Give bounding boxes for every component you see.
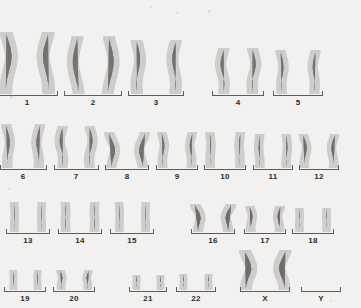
chromosome-group-8[interactable]: 8 — [105, 110, 149, 182]
chromosome-group-y[interactable]: Y — [301, 252, 341, 304]
group-label: 9 — [156, 171, 198, 182]
chromatid — [54, 202, 77, 232]
group-label: 10 — [204, 171, 246, 182]
chromatid — [199, 132, 222, 168]
row-3: 131415161718 — [0, 188, 361, 246]
paper-speck — [176, 12, 178, 14]
group-label: 17 — [244, 235, 286, 246]
chromosome-group-17[interactable]: 17 — [244, 188, 286, 246]
group-bracket — [110, 229, 154, 234]
paper-speck — [330, 300, 332, 302]
group-bracket — [53, 287, 95, 292]
group-bracket — [253, 165, 293, 170]
chromatid — [186, 204, 211, 232]
group-bracket — [105, 165, 149, 170]
chromosome-group-19[interactable]: 19 — [4, 252, 46, 304]
chromosome-group-20[interactable]: 20 — [53, 252, 95, 304]
group-bracket — [54, 165, 99, 170]
chromatid — [61, 36, 90, 94]
group-label: 12 — [299, 171, 339, 182]
chromosome-group-16[interactable]: 16 — [191, 188, 235, 246]
chromosome-group-7[interactable]: 7 — [54, 110, 99, 182]
group-bracket — [244, 229, 286, 234]
group-bracket — [176, 287, 216, 292]
paper-speck — [24, 300, 27, 302]
group-bracket — [240, 287, 290, 292]
chromatid — [49, 126, 74, 168]
chromatid — [152, 132, 175, 168]
chromosome-pair-14 — [58, 188, 102, 232]
group-label: 16 — [191, 235, 235, 246]
chromosome-group-9[interactable]: 9 — [156, 110, 198, 182]
chromosome-group-10[interactable]: 10 — [204, 110, 246, 182]
group-label: 21 — [129, 293, 167, 304]
chromosome-pair-16 — [191, 188, 235, 232]
chromosome-group-14[interactable]: 14 — [58, 188, 102, 246]
chromosome-group-x[interactable]: X — [240, 252, 290, 304]
chromosome-group-1[interactable]: 1 — [0, 18, 58, 108]
group-label: 5 — [273, 97, 323, 108]
chromosome-group-6[interactable]: 6 — [0, 110, 47, 182]
chromosome-pair-15 — [110, 188, 154, 232]
karyotype-figure: 12345678910111213141516171819202122XY — [0, 0, 361, 308]
group-bracket — [58, 229, 102, 234]
group-label: 19 — [4, 293, 46, 304]
chromosome-group-22[interactable]: 22 — [176, 252, 216, 304]
chromosome-group-13[interactable]: 13 — [6, 188, 50, 246]
group-bracket — [64, 91, 122, 96]
chromosome-pair-4 — [212, 18, 264, 94]
row-4: 19202122XY — [0, 252, 361, 304]
row-1: 12345 — [0, 18, 361, 108]
chromosome-pair-6 — [0, 110, 47, 168]
group-bracket — [156, 165, 198, 170]
group-label: 11 — [253, 171, 293, 182]
chromatid — [83, 202, 106, 232]
chromatid — [209, 48, 236, 94]
group-bracket — [0, 165, 47, 170]
group-bracket — [0, 91, 58, 96]
paper-speck — [8, 188, 10, 190]
chromatid — [248, 134, 271, 168]
group-label: 18 — [292, 235, 334, 246]
chromatid — [29, 32, 61, 94]
chromosome-group-15[interactable]: 15 — [110, 188, 154, 246]
chromatid — [0, 32, 25, 94]
chromatid — [100, 132, 125, 168]
chromosome-group-4[interactable]: 4 — [212, 18, 264, 108]
chromatid — [4, 202, 25, 232]
group-bracket — [129, 287, 167, 292]
chromosome-group-11[interactable]: 11 — [253, 110, 293, 182]
chromatid — [234, 250, 263, 290]
chromosome-group-5[interactable]: 5 — [273, 18, 323, 108]
group-label: X — [240, 293, 290, 304]
chromosome-group-18[interactable]: 18 — [292, 188, 334, 246]
group-label: 1 — [0, 97, 58, 108]
chromatid — [124, 40, 153, 94]
chromosome-pair-17 — [244, 188, 286, 232]
chromosome-group-2[interactable]: 2 — [64, 18, 122, 108]
chromatid — [215, 204, 240, 232]
group-bracket — [128, 91, 184, 96]
chromosome-group-3[interactable]: 3 — [128, 18, 184, 108]
chromatid — [321, 134, 344, 168]
chromosome-pair-8 — [105, 110, 149, 168]
chromosome-group-12[interactable]: 12 — [299, 110, 339, 182]
chromatid — [96, 36, 125, 94]
chromosome-pair-2 — [64, 18, 122, 94]
chromosome-pair-x — [240, 252, 290, 290]
chromatid — [78, 126, 103, 168]
chromosome-group-21[interactable]: 21 — [129, 252, 167, 304]
group-bracket — [299, 165, 339, 170]
chromosome-pair-21 — [129, 252, 167, 290]
chromosome-pair-12 — [299, 110, 339, 168]
chromosome-pair-19 — [4, 252, 46, 290]
group-label: 22 — [176, 293, 216, 304]
chromatid — [135, 202, 156, 232]
chromatid — [0, 124, 22, 168]
chromatid — [301, 50, 326, 94]
chromosome-pair-13 — [6, 188, 50, 232]
chromosome-pair-9 — [156, 110, 198, 168]
chromatid — [240, 48, 267, 94]
paper-speck — [10, 96, 13, 99]
group-label: 2 — [64, 97, 122, 108]
